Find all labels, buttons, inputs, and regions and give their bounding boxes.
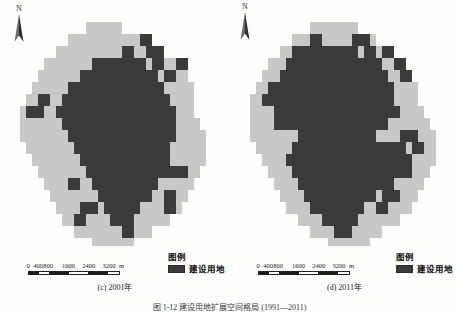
figure-caption: 图 1-12 建设用地扩展空间格局 (1991—2011) [0, 303, 459, 313]
scalebar-segment [49, 272, 69, 274]
legend-swatch-builtup [396, 265, 413, 273]
panel-caption-d: (d) 2011年 [230, 283, 459, 293]
scalebar-panel-c: 0 400 800 1600 2400 3200 m [28, 261, 120, 275]
scalebar-tick-5: 3200 [332, 261, 345, 270]
legend-title: 图例 [168, 252, 225, 262]
legend-label-builtup: 建设用地 [189, 264, 225, 274]
legend-label-builtup: 建设用地 [417, 264, 453, 274]
legend-item-builtup: 建设用地 [396, 264, 453, 274]
scalebar-segment [299, 272, 319, 274]
scalebar-tick-0: 0 [26, 261, 29, 270]
scalebar-tick-3: 1600 [62, 261, 75, 270]
scalebar-segment [279, 272, 299, 274]
scalebar-segment [108, 272, 119, 274]
scalebar-tick-0: 0 [256, 261, 259, 270]
scalebar-segment [338, 272, 349, 274]
map-panel-d-2011: N [230, 0, 459, 311]
scalebar-unit: m [119, 261, 124, 270]
scalebar-tick-4: 2400 [312, 261, 325, 270]
scalebar-panel-d: 0 400 800 1600 2400 3200 m [258, 261, 350, 275]
scalebar-tick-1: 400 [263, 261, 273, 270]
scalebar-segment [269, 272, 279, 274]
scalebar-tick-1: 400 [33, 261, 43, 270]
scalebar-segment [259, 272, 269, 274]
scalebar-segment [29, 272, 39, 274]
north-arrow-label: N [8, 4, 30, 13]
scalebar-segment [39, 272, 49, 274]
raster-map-c-svg [14, 14, 214, 246]
scalebar-tick-labels: 0 400 800 1600 2400 3200 m [258, 261, 350, 270]
scalebar-tick-5: 3200 [102, 261, 115, 270]
scalebar-tick-3: 1600 [292, 261, 305, 270]
scalebar-tick-2: 800 [43, 261, 53, 270]
scalebar-segment [88, 272, 108, 274]
raster-map-d [244, 14, 444, 246]
raster-map-c [14, 14, 214, 246]
map-panel-c-2001: N [0, 0, 230, 311]
north-arrow-label: N [234, 2, 256, 11]
scalebar-unit: m [349, 261, 354, 270]
legend-title: 图例 [396, 252, 453, 262]
legend-swatch-builtup [168, 265, 185, 273]
scalebar-segment [318, 272, 338, 274]
scalebar-tick-labels: 0 400 800 1600 2400 3200 m [28, 261, 120, 270]
scalebar-graphic [28, 271, 120, 275]
scalebar-graphic [258, 271, 350, 275]
scalebar-segment [69, 272, 89, 274]
legend-panel-d: 图例 建设用地 [396, 252, 453, 274]
panel-caption-c: (c) 2001年 [0, 283, 230, 293]
scalebar-tick-2: 800 [273, 261, 283, 270]
legend-item-builtup: 建设用地 [168, 264, 225, 274]
raster-map-d-svg [244, 14, 444, 246]
legend-panel-c: 图例 建设用地 [168, 252, 225, 274]
scalebar-tick-4: 2400 [82, 261, 95, 270]
